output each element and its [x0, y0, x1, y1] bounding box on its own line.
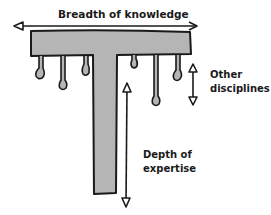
breadth-label: Breadth of knowledge	[58, 8, 189, 21]
drip-2	[59, 56, 67, 90]
drip-1	[36, 56, 44, 79]
disciplines-arrow	[189, 64, 197, 105]
drip-3	[82, 56, 89, 75]
drip-5	[152, 55, 160, 106]
t-shaped-skills-diagram	[0, 0, 271, 215]
drip-4	[131, 55, 137, 68]
disciplines-label: disciplines	[210, 82, 270, 95]
depth-arrow	[122, 83, 131, 207]
expertise-label: expertise	[143, 162, 196, 175]
breadth-arrow	[14, 22, 197, 30]
drip-6	[173, 55, 181, 81]
other-label: Other	[210, 68, 242, 81]
depth-label: Depth of	[143, 148, 192, 161]
